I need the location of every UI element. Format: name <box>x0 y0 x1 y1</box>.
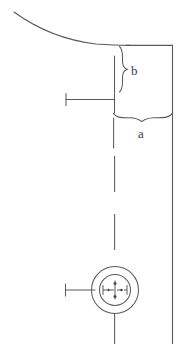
brace-b <box>120 47 128 93</box>
brace-a <box>114 114 173 122</box>
drawing-canvas: b a <box>0 0 183 344</box>
button-hole-bottom <box>114 295 117 298</box>
shoulder-curve <box>14 12 130 45</box>
label-a: a <box>138 126 144 141</box>
button-hole-left <box>107 289 110 292</box>
button-hole-right <box>120 289 123 292</box>
technical-drawing-figure: b a <box>0 0 183 344</box>
label-b: b <box>131 63 138 78</box>
button-hole-top <box>114 282 117 285</box>
